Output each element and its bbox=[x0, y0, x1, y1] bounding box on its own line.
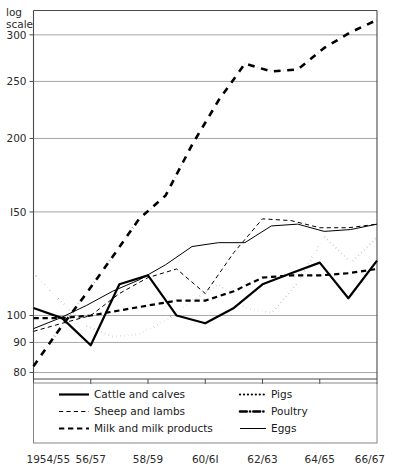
legend-label-cattle-and-calves: Cattle and calves bbox=[94, 388, 185, 400]
legend-label-pigs: Pigs bbox=[271, 388, 292, 400]
y-tick-label-80: 80 bbox=[13, 366, 26, 378]
x-tick-label-64-65: 64/65 bbox=[305, 453, 335, 465]
y-tick-label-150: I50 bbox=[10, 206, 26, 218]
y-tick-label-200: 200 bbox=[6, 132, 26, 144]
x-tick-label-62-63: 62/63 bbox=[247, 453, 277, 465]
livestock-index-line-chart: log scale 8090100I50200250300 1954/5556/… bbox=[0, 0, 400, 472]
x-tick-labels-group: 1954/5556/5758/5960/6I62/6364/6566/67 bbox=[27, 453, 386, 465]
y-tick-label-300: 300 bbox=[6, 29, 26, 41]
x-tick-label-56-57: 56/57 bbox=[76, 453, 106, 465]
chart-figure: log scale 8090100I50200250300 1954/5556/… bbox=[0, 0, 400, 472]
chart-background bbox=[0, 0, 400, 472]
legend-label-poultry: Poultry bbox=[271, 405, 308, 417]
legend-label-milk-and-milk-products: Milk and milk products bbox=[94, 422, 213, 434]
y-tick-label-90: 90 bbox=[13, 336, 26, 348]
x-tick-label-1954-55: 1954/55 bbox=[27, 453, 71, 465]
y-tick-label-250: 250 bbox=[6, 75, 26, 87]
y-axis-title-line1: log bbox=[6, 6, 22, 18]
legend-label-sheep-and-lambs: Sheep and lambs bbox=[94, 405, 185, 417]
y-tick-label-100: 100 bbox=[6, 309, 26, 321]
x-tick-label-66-67: 66/67 bbox=[355, 453, 385, 465]
legend-label-eggs: Eggs bbox=[271, 422, 296, 434]
x-tick-label-60-6I: 60/6I bbox=[192, 453, 219, 465]
x-tick-label-58-59: 58/59 bbox=[133, 453, 163, 465]
